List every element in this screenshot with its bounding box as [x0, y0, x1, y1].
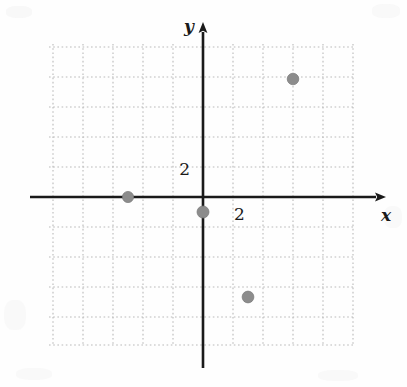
- scatter-points-group: [122, 73, 298, 303]
- x-axis-label: x: [380, 205, 392, 225]
- data-point: [197, 206, 209, 218]
- plot-canvas: y x 2 2: [0, 0, 407, 387]
- y-axis-label: y: [183, 16, 195, 36]
- data-point: [287, 73, 299, 85]
- x-axis-tick-label-2: 2: [234, 204, 245, 224]
- y-axis-tick-label-2: 2: [179, 159, 190, 179]
- data-point: [242, 291, 254, 303]
- data-point: [122, 191, 133, 202]
- coordinate-plane-figure: y x 2 2: [0, 0, 407, 387]
